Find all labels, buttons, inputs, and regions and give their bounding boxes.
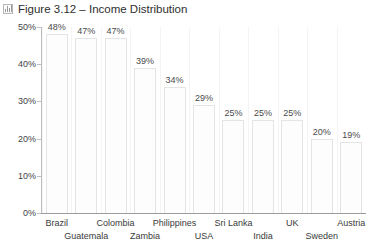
y-axis-tick-label: 0% (2, 209, 36, 218)
y-axis-tick (37, 101, 41, 102)
x-axis-label: India (232, 231, 294, 241)
bar-value-label: 25% (272, 109, 312, 118)
bar[interactable] (134, 68, 156, 213)
y-axis-tick-label: 20% (2, 135, 36, 144)
column-separator (71, 27, 72, 213)
x-axis-label: UK (261, 218, 323, 228)
column-separator (307, 27, 308, 213)
y-axis-tick-label: 40% (2, 60, 36, 69)
column-separator (130, 27, 131, 213)
y-axis-tick-label: 10% (2, 172, 36, 181)
bar[interactable] (311, 139, 333, 213)
page-title: Figure 3.12 – Income Distribution (0, 0, 187, 18)
x-axis-line (41, 213, 366, 214)
x-axis-label: Philippines (144, 218, 206, 228)
bar[interactable] (105, 38, 127, 213)
y-axis-tick (37, 139, 41, 140)
column-separator (101, 27, 102, 213)
x-axis-label: Guatemala (55, 231, 117, 241)
bar[interactable] (46, 34, 68, 213)
bar[interactable] (281, 120, 303, 213)
bar[interactable] (252, 120, 274, 213)
y-axis-tick (37, 64, 41, 65)
plot-area (42, 27, 366, 213)
column-separator (248, 27, 249, 213)
column-separator (42, 27, 43, 213)
x-axis-label: Sweden (291, 231, 353, 241)
bar-value-label: 29% (184, 94, 224, 103)
page-title-text: Figure 3.12 – Income Distribution (18, 2, 187, 16)
bar-chart-icon (3, 4, 13, 14)
x-axis-label: Brazil (26, 218, 88, 228)
bar-value-label: 19% (331, 131, 368, 140)
column-separator (160, 27, 161, 213)
x-axis-label: Sri Lanka (202, 218, 264, 228)
bar[interactable] (193, 105, 215, 213)
bar-value-label: 39% (125, 57, 165, 66)
bar[interactable] (340, 142, 362, 213)
bar[interactable] (222, 120, 244, 213)
bar[interactable] (164, 87, 186, 213)
column-separator (219, 27, 220, 213)
bar[interactable] (75, 38, 97, 213)
bar-value-label: 47% (96, 27, 136, 36)
y-axis-tick (37, 176, 41, 177)
y-axis-tick (37, 213, 41, 214)
x-axis-label: Austria (320, 218, 368, 228)
y-axis-tick-label: 50% (2, 23, 36, 32)
y-axis-tick-label: 30% (2, 97, 36, 106)
x-axis-label: Colombia (85, 218, 147, 228)
column-separator (189, 27, 190, 213)
column-separator (278, 27, 279, 213)
bar-value-label: 34% (155, 76, 195, 85)
x-axis-label: Zambia (114, 231, 176, 241)
x-axis-label: USA (173, 231, 235, 241)
column-separator (337, 27, 338, 213)
